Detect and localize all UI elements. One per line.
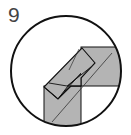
origami-diagram (0, 0, 131, 135)
